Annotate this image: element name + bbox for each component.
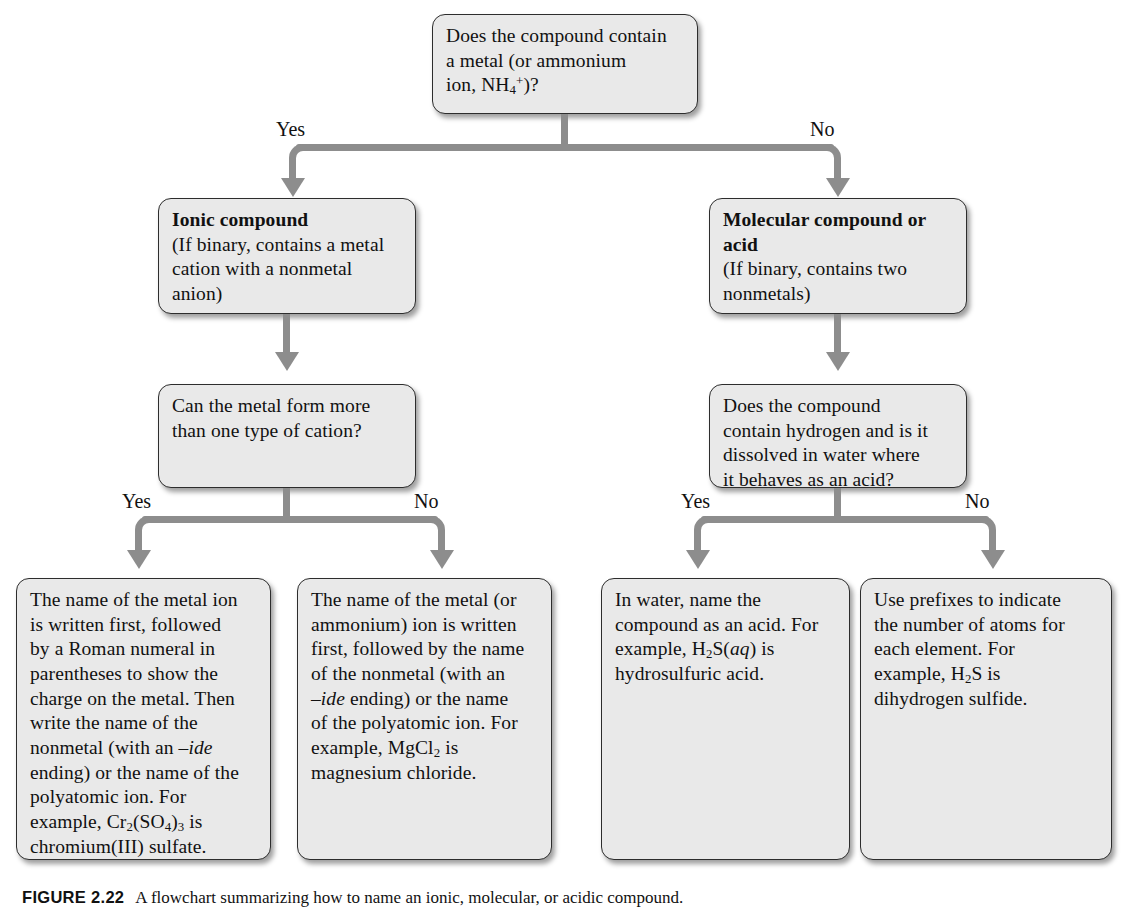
ionic-compound-line-3: anion) bbox=[172, 282, 403, 307]
metal-cation-question-line-1: Can the metal form more bbox=[172, 394, 403, 419]
prefix-naming-rule-line-1: Use prefixes to indicate bbox=[874, 588, 1099, 613]
roman-numeral-rule-line-4: parentheses to show the bbox=[30, 662, 258, 687]
branch-label-level2-left-yes: Yes bbox=[122, 490, 151, 513]
node-simple-ionic-rule: The name of the metal (or ammonium) ion … bbox=[297, 578, 552, 860]
acid-question-line-2: contain hydrogen and is it bbox=[723, 419, 954, 444]
simple-ionic-rule-line-8: magnesium chloride. bbox=[311, 761, 539, 786]
arrowhead-level2-right-yes bbox=[686, 550, 710, 569]
arrowhead-level2-right-no bbox=[981, 550, 1005, 569]
roman-numeral-rule-line-8: ending) or the name of the bbox=[30, 761, 258, 786]
branch-label-level2-right-no: No bbox=[965, 490, 989, 513]
branch-label-level1-yes: Yes bbox=[276, 118, 305, 141]
ionic-compound-line-1: (If binary, contains a metal bbox=[172, 233, 403, 258]
node-ionic-compound: Ionic compound (If binary, contains a me… bbox=[158, 198, 416, 314]
simple-ionic-rule-line-2: ammonium) ion is written bbox=[311, 613, 539, 638]
roman-numeral-rule-line-3: by a Roman numeral in bbox=[30, 637, 258, 662]
simple-ionic-rule-line-5: –ide ending) or the name bbox=[311, 687, 539, 712]
simple-ionic-rule-line-7: example, MgCl2 is bbox=[311, 736, 539, 761]
arrowhead-molecular-to-question bbox=[826, 352, 850, 371]
branch-label-level1-no: No bbox=[810, 118, 834, 141]
arrowhead-ionic-to-question bbox=[275, 352, 299, 371]
acid-naming-rule-line-3: example, H2S(aq) is bbox=[615, 637, 837, 662]
roman-numeral-rule-line-2: is written first, followed bbox=[30, 613, 258, 638]
roman-numeral-rule-line-1: The name of the metal ion bbox=[30, 588, 258, 613]
ionic-compound-heading: Ionic compound bbox=[172, 208, 403, 233]
simple-ionic-rule-line-3: first, followed by the name bbox=[311, 637, 539, 662]
connector-level2-left-bar bbox=[142, 516, 438, 523]
connector-level2-right-bar bbox=[701, 516, 989, 523]
figure-caption: FIGURE 2.22A flowchart summarizing how t… bbox=[22, 888, 1112, 908]
root-question-line-1: Does the compound contain bbox=[446, 24, 685, 49]
roman-numeral-rule-line-10: example, Cr2(SO4)3 is bbox=[30, 810, 258, 835]
simple-ionic-rule-line-1: The name of the metal (or bbox=[311, 588, 539, 613]
node-acid-naming-rule: In water, name the compound as an acid. … bbox=[601, 578, 850, 860]
molecular-compound-heading-2: acid bbox=[723, 233, 954, 258]
acid-naming-rule-line-4: hydrosulfuric acid. bbox=[615, 662, 837, 687]
root-question-line-3: ion, NH4+)? bbox=[446, 73, 685, 98]
root-question-line-2: a metal (or ammonium bbox=[446, 49, 685, 74]
roman-numeral-rule-line-5: charge on the metal. Then bbox=[30, 687, 258, 712]
arrowhead-level1-right bbox=[826, 178, 850, 197]
branch-label-level2-right-yes: Yes bbox=[681, 490, 710, 513]
acid-question-line-1: Does the compound bbox=[723, 394, 954, 419]
figure-caption-text: A flowchart summarizing how to name an i… bbox=[135, 888, 683, 907]
node-acid-question: Does the compound contain hydrogen and i… bbox=[709, 384, 967, 488]
connector-level1-bar bbox=[296, 144, 834, 151]
roman-numeral-rule-line-11: chromium(III) sulfate. bbox=[30, 835, 258, 860]
roman-numeral-rule-line-6: write the name of the bbox=[30, 711, 258, 736]
molecular-compound-line-2: nonmetals) bbox=[723, 282, 954, 307]
arrowhead-level2-left-yes bbox=[127, 550, 151, 569]
ionic-compound-line-2: cation with a nonmetal bbox=[172, 257, 403, 282]
acid-naming-rule-line-2: compound as an acid. For bbox=[615, 613, 837, 638]
roman-numeral-rule-line-7: nonmetal (with an –ide bbox=[30, 736, 258, 761]
molecular-compound-heading-1: Molecular compound or bbox=[723, 208, 954, 233]
node-roman-numeral-rule: The name of the metal ion is written fir… bbox=[16, 578, 271, 860]
acid-question-line-3: dissolved in water where bbox=[723, 443, 954, 468]
simple-ionic-rule-line-6: of the polyatomic ion. For bbox=[311, 711, 539, 736]
molecular-compound-line-1: (If binary, contains two bbox=[723, 257, 954, 282]
roman-numeral-rule-line-9: polyatomic ion. For bbox=[30, 785, 258, 810]
node-metal-cation-question: Can the metal form more than one type of… bbox=[158, 384, 416, 488]
node-molecular-compound-or-acid: Molecular compound or acid (If binary, c… bbox=[709, 198, 967, 314]
prefix-naming-rule-line-2: the number of atoms for bbox=[874, 613, 1099, 638]
arrowhead-level2-left-no bbox=[430, 550, 454, 569]
acid-naming-rule-line-1: In water, name the bbox=[615, 588, 837, 613]
metal-cation-question-line-2: than one type of cation? bbox=[172, 419, 403, 444]
branch-label-level2-left-no: No bbox=[414, 490, 438, 513]
figure-number: FIGURE 2.22 bbox=[22, 888, 124, 906]
node-root-question: Does the compound contain a metal (or am… bbox=[432, 14, 698, 114]
connector-root-stem bbox=[561, 114, 568, 148]
prefix-naming-rule-line-4: example, H2S is bbox=[874, 662, 1099, 687]
simple-ionic-rule-line-4: of the nonmetal (with an bbox=[311, 662, 539, 687]
prefix-naming-rule-line-5: dihydrogen sulfide. bbox=[874, 687, 1099, 712]
arrowhead-level1-left bbox=[281, 178, 305, 197]
node-prefix-naming-rule: Use prefixes to indicate the number of a… bbox=[860, 578, 1112, 860]
prefix-naming-rule-line-3: each element. For bbox=[874, 637, 1099, 662]
